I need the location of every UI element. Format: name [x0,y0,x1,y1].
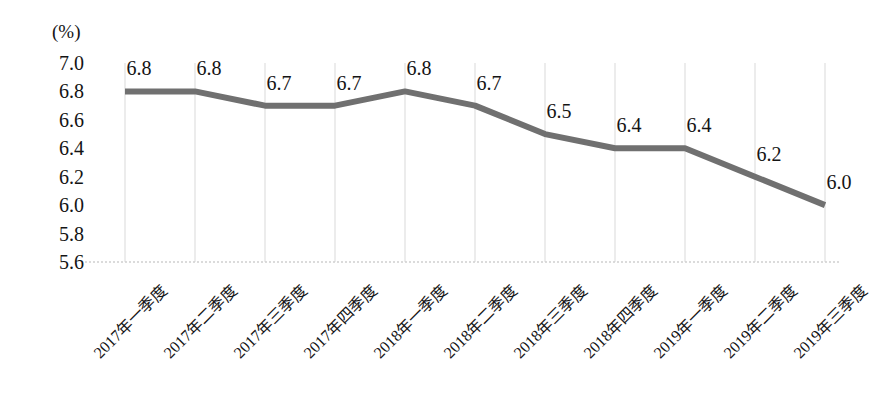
y-axis-tick-6-6: 6.6 [38,110,84,130]
y-axis-tick-5-8: 5.8 [38,224,84,244]
point-label-7: 6.4 [617,115,642,135]
y-axis-tick-6-4: 6.4 [38,138,84,158]
line-chart: (%) 7.06.86.66.46.26.05.85.6 6.86.86.76.… [0,0,890,411]
point-label-2: 6.7 [267,73,292,93]
y-axis-tick-7-0: 7.0 [38,53,84,73]
point-label-6: 6.5 [547,101,572,121]
point-label-10: 6.0 [827,172,852,192]
point-label-8: 6.4 [687,115,712,135]
y-axis-tick-6-0: 6.0 [38,195,84,215]
y-axis-tick-labels: 7.06.86.66.46.26.05.85.6 [38,0,84,411]
point-label-4: 6.8 [407,58,432,78]
y-axis-tick-6-8: 6.8 [38,81,84,101]
point-label-1: 6.8 [197,58,222,78]
y-axis-tick-6-2: 6.2 [38,167,84,187]
point-label-0: 6.8 [127,58,152,78]
point-label-3: 6.7 [337,73,362,93]
point-label-9: 6.2 [757,144,782,164]
y-axis-tick-5-6: 5.6 [38,252,84,272]
point-label-5: 6.7 [477,73,502,93]
plot-area: 6.86.86.76.76.86.76.56.46.46.26.0 2017年一… [85,0,845,411]
